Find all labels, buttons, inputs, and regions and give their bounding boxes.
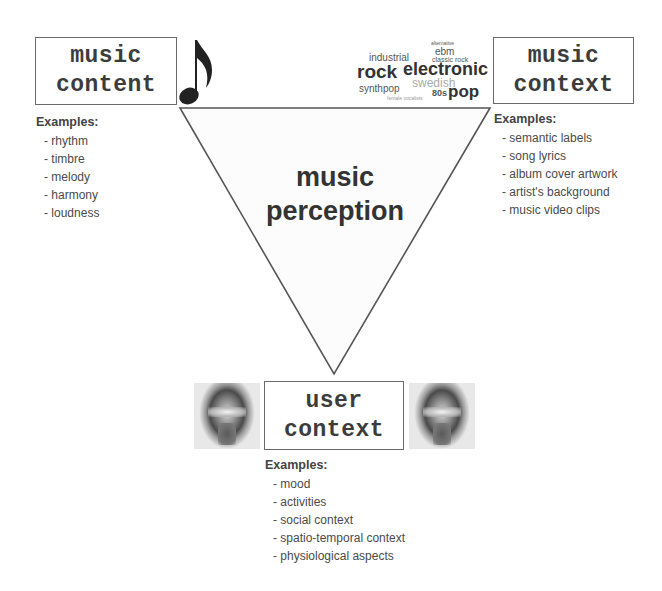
example-item: timbre <box>44 150 99 168</box>
example-item: harmony <box>44 186 99 204</box>
music-content-box: music content <box>35 37 177 105</box>
tag-synthpop: synthpop <box>359 84 400 94</box>
examples-heading: Examples: <box>494 112 617 126</box>
face-headphones-image-right <box>409 383 475 449</box>
music-context-title-1: music <box>528 42 600 71</box>
example-item: artist's background <box>502 183 617 201</box>
music-note-icon <box>178 36 218 108</box>
perception-line-2: perception <box>230 194 440 228</box>
example-item: music video clips <box>502 201 617 219</box>
example-item: spatio-temporal context <box>273 529 405 547</box>
example-item: melody <box>44 168 99 186</box>
user-context-title-2: context <box>284 416 384 445</box>
example-item: social context <box>273 511 405 529</box>
example-item: song lyrics <box>502 147 617 165</box>
example-item: rhythm <box>44 132 99 150</box>
example-item: mood <box>273 475 405 493</box>
example-item: loudness <box>44 204 99 222</box>
example-item: activities <box>273 493 405 511</box>
music-perception-label: music perception <box>230 160 440 228</box>
examples-heading: Examples: <box>265 458 405 472</box>
example-item: physiological aspects <box>273 547 405 565</box>
user-context-title-1: user <box>305 387 362 416</box>
music-context-title-2: context <box>513 71 613 100</box>
tag-pop: pop <box>448 83 479 100</box>
music-content-title-1: music <box>70 42 142 71</box>
example-item: album cover artwork <box>502 165 617 183</box>
perception-line-1: music <box>230 160 440 194</box>
tag-cloud: alternative ebm industrial classic rock … <box>355 38 490 106</box>
tag-female-vocalists: female vocalists <box>387 96 423 101</box>
examples-heading: Examples: <box>36 115 99 129</box>
tag-rock: rock <box>357 62 397 81</box>
user-context-examples: Examples: mood activities social context… <box>265 458 405 565</box>
tag-80s: 80s <box>432 89 447 98</box>
music-context-examples: Examples: semantic labels song lyrics al… <box>494 112 617 219</box>
music-content-examples: Examples: rhythm timbre melody harmony l… <box>36 115 99 222</box>
music-context-box: music context <box>493 37 634 104</box>
music-content-title-2: content <box>56 71 156 100</box>
user-context-box: user context <box>264 381 404 450</box>
example-item: semantic labels <box>502 129 617 147</box>
face-headphones-image-left <box>194 383 260 449</box>
